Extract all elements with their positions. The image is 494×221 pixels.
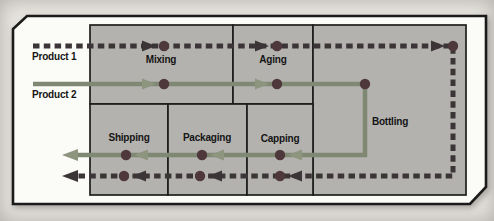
shipping-label: Shipping [108,132,149,143]
capping-label: Capping [261,133,300,144]
pipeline-diagram: Product 1 Product 2 Mixing Aging Bottlin… [0,0,494,221]
labels-layer: Product 1 Product 2 Mixing Aging Bottlin… [0,0,494,221]
bottling-label: Bottling [372,116,408,127]
product1-label: Product 1 [32,51,76,62]
packaging-label: Packaging [183,132,231,143]
product2-label: Product 2 [32,89,76,100]
aging-label: Aging [259,54,286,65]
mixing-label: Mixing [146,54,176,65]
